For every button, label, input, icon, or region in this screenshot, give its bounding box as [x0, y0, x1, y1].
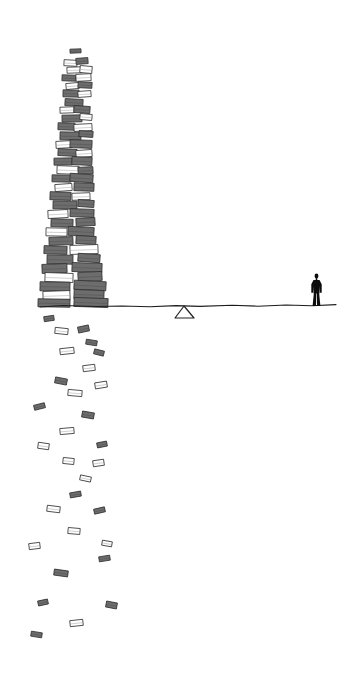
book-stack-16	[58, 123, 75, 131]
book-stack-32	[50, 192, 71, 201]
book-falling-11	[82, 411, 95, 419]
book-stack-13	[74, 105, 90, 113]
book-stack-48	[42, 264, 67, 274]
book-stack-12	[60, 107, 74, 113]
book-stack-6	[76, 74, 91, 82]
book-falling-27	[106, 601, 118, 609]
figure-right-leg	[317, 293, 321, 306]
book-stack-47	[78, 253, 101, 263]
book-stack-36	[48, 209, 68, 218]
book-stack-39	[76, 218, 95, 227]
book-stack-34	[53, 201, 77, 209]
book-stack-2	[76, 58, 88, 65]
book-stack-31	[74, 183, 94, 192]
book-falling-26	[38, 599, 49, 606]
book-falling-8	[95, 381, 108, 389]
book-falling-20	[94, 507, 106, 514]
book-stack-27	[78, 167, 93, 175]
book-falling-9	[68, 389, 82, 396]
book-stack-41	[68, 226, 94, 236]
book-stack-24	[54, 158, 72, 165]
book-falling-28	[70, 619, 84, 626]
book-stack-25	[72, 156, 92, 165]
book-stack-23	[76, 149, 92, 157]
book-falling-12	[60, 427, 74, 434]
book-stack-28	[52, 175, 71, 182]
book-stack-8	[78, 82, 92, 89]
figure-head	[315, 273, 319, 278]
book-stack-7	[66, 82, 79, 89]
book-falling-4	[60, 347, 75, 354]
book-falling-7	[55, 377, 68, 385]
book-stack-44	[44, 246, 67, 255]
book-stack-53	[74, 280, 106, 291]
book-stack-5	[62, 75, 76, 81]
book-falling-29	[31, 631, 43, 638]
book-falling-19	[47, 505, 61, 513]
book-falling-16	[93, 459, 105, 466]
figure-left-leg	[313, 293, 317, 306]
book-stack-30	[55, 183, 72, 191]
fulcrum-triangle	[175, 306, 194, 318]
book-falling-2	[77, 325, 89, 333]
book-falling-15	[63, 457, 75, 464]
book-stack-43	[76, 235, 96, 244]
book-stack-1	[64, 60, 77, 67]
book-falling-22	[29, 542, 41, 549]
book-stack-14	[62, 115, 82, 122]
book-stack-17	[74, 124, 92, 132]
book-falling-3	[86, 339, 98, 346]
book-stack-52	[40, 282, 70, 292]
book-stack-50	[45, 273, 73, 283]
book-stack-9	[63, 90, 79, 97]
book-falling-25	[54, 569, 69, 577]
book-stack-19	[79, 131, 93, 138]
book-falling-14	[97, 441, 108, 448]
book-stack-51	[78, 271, 102, 281]
book-stack-29	[70, 173, 94, 183]
illustration-canvas	[0, 0, 352, 677]
book-falling-0	[44, 315, 55, 321]
book-stack-37	[70, 209, 94, 218]
book-falling-23	[102, 540, 113, 547]
book-stack-46	[47, 255, 73, 264]
book-falling-1	[55, 327, 69, 334]
book-stack-35	[78, 199, 94, 207]
book-falling-13	[38, 442, 50, 449]
book-stack-15	[80, 113, 92, 120]
book-stack-0	[70, 49, 81, 53]
book-stack-40	[46, 228, 67, 236]
book-stack-18	[60, 132, 81, 140]
illustration-svg	[0, 0, 352, 677]
book-stack-33	[72, 193, 90, 201]
book-stack-21	[70, 140, 92, 149]
book-stack-49	[72, 262, 102, 272]
book-stack-42	[49, 237, 73, 246]
book-tower	[38, 49, 108, 308]
book-falling-24	[99, 555, 111, 562]
book-falling-17	[80, 475, 92, 482]
book-stack-45	[70, 245, 98, 255]
book-falling-5	[94, 349, 105, 356]
book-falling-6	[83, 364, 96, 371]
figure-torso-arms	[311, 280, 321, 294]
book-falling-21	[68, 527, 80, 534]
book-stack-4	[80, 65, 93, 73]
book-stack-22	[58, 149, 77, 157]
figure-neck	[316, 278, 318, 280]
book-stack-26	[57, 166, 79, 175]
book-stack-10	[78, 91, 91, 98]
falling-books	[29, 315, 118, 638]
book-falling-10	[34, 403, 46, 411]
book-falling-18	[70, 491, 82, 498]
person-silhouette	[311, 273, 321, 306]
